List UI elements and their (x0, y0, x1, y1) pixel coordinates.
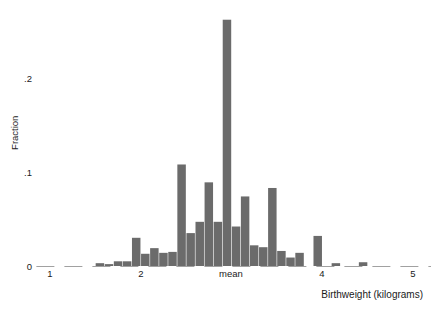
histogram-bar (223, 20, 231, 266)
histogram-bar (250, 245, 258, 266)
histogram-bar (132, 238, 140, 266)
histogram-bar (332, 263, 340, 266)
histogram-bar (359, 262, 367, 266)
x-axis-tick-label-1: 1 (47, 269, 52, 279)
histogram-figure: .2 .1 0 Fraction 1 2 mean 4 5 Birthweigh… (0, 0, 431, 318)
x-axis-tick-label-2: 2 (138, 269, 143, 279)
histogram-bar (141, 254, 149, 266)
x-axis-tick-label-mean: mean (219, 269, 243, 279)
histogram-bar (259, 247, 267, 266)
y-axis-tick-label-0.2: .2 (10, 74, 32, 84)
histogram-bar (105, 264, 113, 266)
histogram-bar (214, 222, 222, 266)
histogram-bar (150, 248, 158, 266)
histogram-bar (205, 182, 213, 266)
plot-area (0, 0, 431, 318)
x-axis-tick-label-4: 4 (319, 269, 324, 279)
histogram-bar (232, 227, 240, 266)
histogram-bars-svg (0, 0, 431, 318)
x-axis-tick-label-5: 5 (410, 269, 415, 279)
y-axis-tick-label-0: 0 (10, 262, 32, 272)
y-axis-title: Fraction (10, 98, 20, 168)
histogram-bar (168, 252, 176, 266)
histogram-bar (277, 251, 285, 266)
histogram-bar (177, 164, 185, 266)
histogram-bar (295, 253, 303, 266)
x-axis-title: Birthweight (kilograms) (321, 290, 423, 300)
histogram-bar (268, 188, 276, 266)
histogram-bar (96, 263, 104, 266)
histogram-bar (241, 196, 249, 266)
histogram-bar (123, 261, 131, 266)
y-axis-tick-label-0.1: .1 (10, 168, 32, 178)
histogram-bar (114, 261, 122, 266)
histogram-bar (313, 236, 321, 266)
histogram-bar (286, 258, 294, 266)
histogram-bar (159, 253, 167, 266)
histogram-bar (186, 233, 194, 266)
histogram-bar (196, 222, 204, 266)
